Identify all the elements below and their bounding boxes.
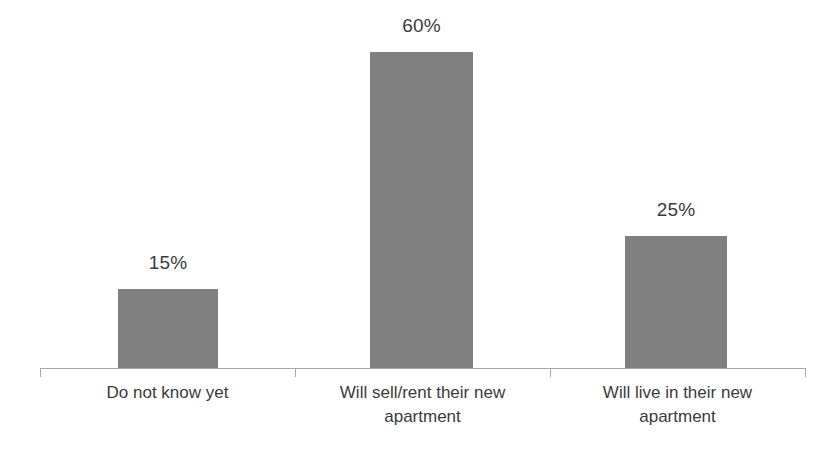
x-axis-tick-2: [550, 368, 551, 377]
x-tick-label-2: Will live in their new apartment: [550, 381, 805, 429]
x-axis-tick-1: [295, 368, 296, 377]
x-tick-label-0: Do not know yet: [40, 381, 295, 405]
value-label-bar-3: 25%: [625, 199, 727, 221]
x-tick-label-1: Will sell/rent their new apartment: [295, 381, 550, 429]
bar-will-sell-rent-their-new-apartment: [370, 52, 473, 368]
bar-do-not-know-yet: [118, 289, 218, 368]
x-axis-line: [40, 368, 805, 369]
x-axis-tick-3: [805, 368, 806, 377]
plot-area: 15% 60% 25% Do not know yet Will sell/re…: [0, 0, 838, 454]
x-axis-tick-0: [40, 368, 41, 377]
bar-will-live-in-their-new-apartment: [625, 236, 727, 368]
value-label-bar-1: 15%: [118, 252, 218, 274]
bar-chart: 15% 60% 25% Do not know yet Will sell/re…: [0, 0, 838, 454]
value-label-bar-2: 60%: [370, 15, 473, 37]
